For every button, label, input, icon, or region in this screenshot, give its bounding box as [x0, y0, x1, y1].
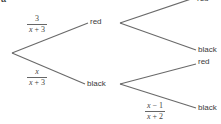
outcome-black-black: black [198, 104, 217, 112]
outcome-first-black: black [87, 80, 106, 88]
prob-numerator: x [33, 68, 41, 76]
branch-red-red [120, 0, 194, 23]
prob-denominator: x + 3 [27, 79, 47, 87]
branch-first-red [12, 23, 88, 53]
prob-black-black: x − 1 x + 2 [145, 102, 165, 121]
prob-first-red: 3 x + 3 [27, 15, 47, 34]
branch-first-black [12, 53, 85, 84]
prob-numerator: 3 [33, 15, 41, 23]
prob-first-black: x x + 3 [27, 68, 47, 87]
prob-denominator: x + 2 [145, 113, 165, 121]
outcome-red-black: black [198, 46, 217, 54]
prob-denominator: x + 3 [27, 26, 47, 34]
prob-numerator: x − 1 [145, 102, 165, 110]
outcome-black-red: red [198, 58, 210, 66]
outcome-first-red: red [90, 18, 102, 26]
branch-black-red [120, 64, 196, 84]
outcome-red-red: red [197, 0, 209, 3]
branch-red-black [120, 23, 196, 50]
